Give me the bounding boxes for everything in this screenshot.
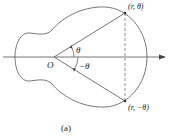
angle-label-lower: −θ bbox=[79, 61, 90, 71]
point-lower bbox=[124, 100, 127, 103]
radius-line-upper bbox=[54, 13, 125, 57]
point-upper bbox=[124, 12, 127, 15]
point-lower-label: (r, −θ) bbox=[128, 103, 149, 112]
angle-label-upper: θ bbox=[76, 45, 81, 55]
angle-arc-lower bbox=[74, 57, 78, 70]
polar-symmetry-diagram: O θ −θ (r, θ) (r, −θ) (a) bbox=[0, 0, 180, 139]
point-upper-label: (r, θ) bbox=[128, 2, 144, 11]
origin-label: O bbox=[47, 60, 54, 70]
figure-caption: (a) bbox=[61, 123, 71, 133]
radius-line-lower bbox=[54, 57, 125, 101]
